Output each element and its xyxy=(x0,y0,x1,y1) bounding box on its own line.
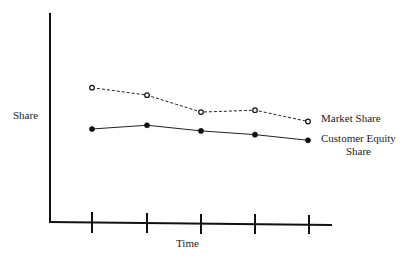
market-share-point xyxy=(145,93,150,98)
customer-equity-share-point xyxy=(198,128,203,133)
axes xyxy=(49,13,332,225)
market-share-point xyxy=(253,108,258,113)
market-share-point xyxy=(199,110,204,115)
x-axis-label: Time xyxy=(176,237,199,249)
legend-customer-equity-share: Customer Equity Share xyxy=(321,132,396,158)
customer-equity-share-point xyxy=(89,126,94,131)
market-share-point xyxy=(306,119,311,124)
legend-line-1: Customer Equity xyxy=(321,132,396,145)
legend-line-2: Share xyxy=(321,145,396,158)
market-share-point xyxy=(90,85,95,90)
customer-equity-share-point xyxy=(252,132,257,137)
customer-equity-share-point xyxy=(305,138,310,143)
legend-market-share: Market Share xyxy=(321,112,381,124)
chart-canvas xyxy=(0,0,413,261)
y-axis-label: Share xyxy=(13,109,38,121)
market-share-line xyxy=(92,88,308,122)
customer-equity-share-point xyxy=(144,123,149,128)
